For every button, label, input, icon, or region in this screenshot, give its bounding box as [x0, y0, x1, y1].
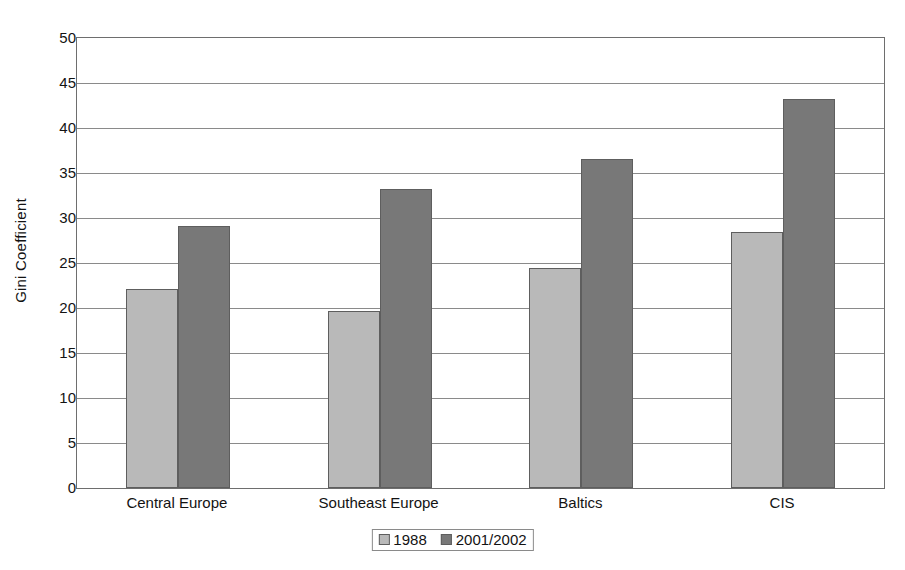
y-axis-ticks: 05101520253035404550	[30, 37, 76, 489]
bar[interactable]	[178, 226, 230, 488]
bar-chart: Gini Coefficient 05101520253035404550 Ce…	[0, 0, 905, 570]
y-tick-label: 0	[42, 480, 76, 495]
bar-group	[279, 38, 481, 488]
y-tick-label: 50	[42, 30, 76, 45]
legend-swatch-icon	[378, 534, 389, 545]
y-tick-label: 40	[42, 120, 76, 135]
legend-item[interactable]: 1988	[378, 532, 426, 547]
y-tick-label: 35	[42, 165, 76, 180]
y-axis-title-text: Gini Coefficient	[12, 198, 29, 303]
y-tick-label: 5	[42, 435, 76, 450]
y-tick-label: 45	[42, 75, 76, 90]
bar[interactable]	[529, 268, 581, 488]
y-tick-label: 20	[42, 300, 76, 315]
bar-group	[77, 38, 279, 488]
bar[interactable]	[380, 189, 432, 488]
y-tick-label: 25	[42, 255, 76, 270]
chart-legend: 19882001/2002	[371, 529, 533, 551]
bars-layer	[77, 38, 884, 488]
legend-label: 1988	[393, 532, 426, 547]
bar[interactable]	[581, 159, 633, 488]
x-tick-label: CIS	[770, 494, 795, 511]
y-tick-label: 15	[42, 345, 76, 360]
bar[interactable]	[731, 232, 783, 488]
x-axis-labels: Central EuropeSoutheast EuropeBalticsCIS	[76, 494, 885, 520]
y-tick-label: 30	[42, 210, 76, 225]
bar-group	[682, 38, 884, 488]
legend-label: 2001/2002	[456, 532, 527, 547]
y-tick-label: 10	[42, 390, 76, 405]
x-tick-label: Southeast Europe	[319, 494, 439, 511]
bar[interactable]	[328, 311, 380, 488]
bar[interactable]	[126, 289, 178, 488]
x-tick-label: Central Europe	[126, 494, 227, 511]
bar[interactable]	[783, 99, 835, 488]
legend-swatch-icon	[441, 534, 452, 545]
legend-item[interactable]: 2001/2002	[441, 532, 527, 547]
bar-group	[481, 38, 683, 488]
x-tick-label: Baltics	[558, 494, 602, 511]
